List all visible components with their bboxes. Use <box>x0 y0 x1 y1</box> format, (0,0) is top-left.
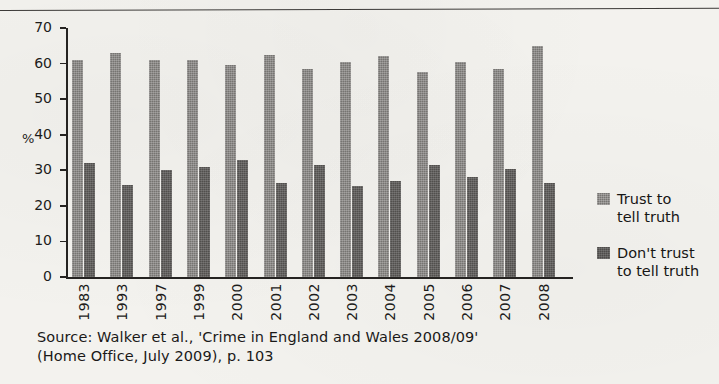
bar-2004-series-0 <box>378 56 389 277</box>
x-tick-label-1993: 1993 <box>114 283 130 321</box>
bar-group <box>455 28 479 277</box>
legend-label-trust: Trust totell truth <box>617 190 680 226</box>
y-tick-label-60: 60 <box>26 55 52 71</box>
bar-chart-figure: % 010203040506070 1983199319971999200020… <box>0 0 719 384</box>
x-tick-label-2005: 2005 <box>421 283 437 321</box>
bar-2005-series-1 <box>429 165 440 277</box>
bar-2003-series-1 <box>352 186 363 277</box>
bar-1983-series-0 <box>72 60 83 277</box>
x-tick-label-2004: 2004 <box>382 283 398 321</box>
bar-2002-series-1 <box>314 165 325 277</box>
x-tick-label-2002: 2002 <box>306 283 322 321</box>
bar-2001-series-1 <box>276 183 287 277</box>
y-tick-label-50: 50 <box>26 90 52 106</box>
bar-group <box>417 28 441 277</box>
bar-2007-series-1 <box>505 169 516 277</box>
bar-2002-series-0 <box>302 69 313 277</box>
bar-group <box>187 28 211 277</box>
y-tick-label-10: 10 <box>26 232 52 248</box>
bar-group <box>493 28 517 277</box>
bar-1993-series-0 <box>110 53 121 277</box>
bar-2004-series-1 <box>390 181 401 277</box>
bar-2005-series-0 <box>417 72 428 277</box>
bar-group <box>225 28 249 277</box>
y-tick-label-30: 30 <box>26 161 52 177</box>
legend-item-trust: Trust totell truth <box>597 190 719 226</box>
legend-label-dont-trust: Don't trustto tell truth <box>617 244 699 280</box>
x-tick-label-2007: 2007 <box>497 283 513 321</box>
legend-swatch-icon-dont-trust <box>597 247 610 259</box>
bar-group <box>378 28 402 277</box>
x-tick-label-1997: 1997 <box>153 283 169 321</box>
bar-group <box>532 28 556 277</box>
y-tick-label-0: 0 <box>26 268 52 284</box>
x-axis-line <box>66 277 573 279</box>
x-tick-label-1999: 1999 <box>191 283 207 321</box>
bar-1993-series-1 <box>122 185 133 277</box>
bar-1983-series-1 <box>84 163 95 277</box>
source-line-1: Source: Walker et al., 'Crime in England… <box>37 328 478 347</box>
bar-2001-series-0 <box>264 55 275 277</box>
bar-group <box>149 28 173 277</box>
x-tick-label-2003: 2003 <box>344 283 360 321</box>
x-tick-label-2001: 2001 <box>268 283 284 321</box>
bar-group <box>110 28 134 277</box>
source-line-2: (Home Office, July 2009), p. 103 <box>37 347 478 366</box>
y-tick-label-70: 70 <box>26 19 52 35</box>
x-tick-label-2008: 2008 <box>536 283 552 321</box>
bar-group <box>72 28 96 277</box>
bar-1997-series-0 <box>149 60 160 277</box>
x-tick-label-1983: 1983 <box>76 283 92 321</box>
bar-2006-series-1 <box>467 177 478 277</box>
legend-item-dont-trust: Don't trustto tell truth <box>597 244 719 280</box>
bar-2008-series-1 <box>544 183 555 277</box>
bar-1997-series-1 <box>161 170 172 277</box>
bar-2008-series-0 <box>532 46 543 277</box>
bar-2000-series-1 <box>237 160 248 277</box>
x-tick-label-2000: 2000 <box>229 283 245 321</box>
bar-2007-series-0 <box>493 69 504 277</box>
bar-1999-series-0 <box>187 60 198 277</box>
bar-2000-series-0 <box>225 65 236 277</box>
bar-1999-series-1 <box>199 167 210 277</box>
plot-area <box>68 28 573 277</box>
source-caption: Source: Walker et al., 'Crime in England… <box>37 328 478 366</box>
legend-swatch-icon-trust <box>597 193 610 205</box>
y-tick-label-40: 40 <box>26 126 52 142</box>
chart-legend: Trust totell truth Don't trustto tell tr… <box>597 190 719 298</box>
x-tick-label-2006: 2006 <box>459 283 475 321</box>
bar-group <box>340 28 364 277</box>
bar-group <box>264 28 288 277</box>
y-axis-tick-labels: 010203040506070 <box>26 0 52 384</box>
bar-2006-series-0 <box>455 62 466 277</box>
bar-2003-series-0 <box>340 62 351 277</box>
bar-group <box>302 28 326 277</box>
y-tick-label-20: 20 <box>26 197 52 213</box>
